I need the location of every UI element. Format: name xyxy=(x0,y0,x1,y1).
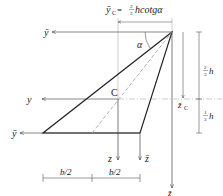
svg-text:y: y xyxy=(26,94,32,105)
triangle xyxy=(43,32,172,133)
svg-text:C: C xyxy=(184,105,188,111)
svg-text:hcotgα: hcotgα xyxy=(135,4,163,15)
svg-text:b/2: b/2 xyxy=(60,167,72,177)
y-bar-top-axis: ȳ xyxy=(43,27,172,38)
svg-text:3: 3 xyxy=(130,11,133,16)
svg-text:ȳ: ȳ xyxy=(11,128,17,139)
svg-text:3: 3 xyxy=(204,72,207,77)
svg-text:3: 3 xyxy=(204,117,207,122)
b-dimensions: b/2 b/2 xyxy=(43,167,140,182)
centroid-label: C xyxy=(111,87,118,98)
y-axis: y xyxy=(26,94,222,105)
h-dimensions: 2 3 h 1 3 h xyxy=(196,32,214,133)
angle-arc xyxy=(145,32,150,48)
z-bar-small-axis: z̄ xyxy=(140,133,149,164)
angle-label: α xyxy=(137,39,143,50)
svg-text:h: h xyxy=(209,66,214,76)
svg-text:ȳ: ȳ xyxy=(43,27,49,38)
svg-text:z̄: z̄ xyxy=(177,100,182,110)
svg-text:z: z xyxy=(107,153,112,164)
triangle-centroid-diagram: ȳ C = 2 3 hcotgα ȳ α y ȳ C z z̄ xyxy=(0,0,223,196)
svg-text:2: 2 xyxy=(204,65,207,70)
svg-text:=: = xyxy=(117,5,122,15)
svg-text:b/2: b/2 xyxy=(109,167,121,177)
svg-text:C: C xyxy=(112,10,116,16)
svg-text:z̄: z̄ xyxy=(144,153,149,164)
median-dashed xyxy=(92,32,172,133)
svg-text:z̄: z̄ xyxy=(167,188,172,196)
svg-text:2: 2 xyxy=(130,4,133,9)
z-bar-large-axis: z̄ xyxy=(167,32,172,196)
svg-text:h: h xyxy=(209,111,214,121)
svg-text:ȳ: ȳ xyxy=(105,4,111,15)
z-axis: z xyxy=(107,99,118,164)
yc-formula: ȳ C = 2 3 hcotgα xyxy=(105,4,163,16)
svg-text:1: 1 xyxy=(204,110,207,115)
